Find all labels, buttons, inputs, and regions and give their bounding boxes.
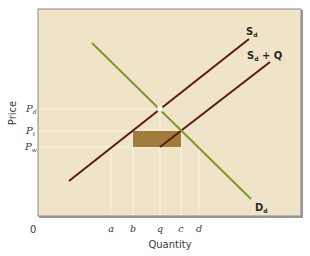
y-axis-title: Price (7, 101, 18, 125)
x-axis-title: Quantity (148, 239, 191, 250)
c-tick-label: c (178, 223, 184, 234)
a-tick-label: a (108, 223, 114, 234)
pt-tick-label: Pt (25, 125, 36, 137)
quota-chart: Sd Sd + Q Dd Pd Pt Pw Price 0 a b q c d … (0, 0, 310, 256)
origin-label: 0 (30, 224, 36, 235)
equilibrium-marker (158, 107, 163, 112)
pd-tick-label: Pd (25, 103, 37, 115)
plot-area (38, 9, 301, 216)
b-tick-label: b (130, 223, 136, 234)
pw-tick-label: Pw (24, 141, 38, 153)
q-tick-label: q (157, 223, 163, 234)
quota-rent-area (133, 131, 181, 147)
d-tick-label: d (196, 223, 202, 234)
sd-plus-q-label: Sd + Q (247, 50, 282, 62)
